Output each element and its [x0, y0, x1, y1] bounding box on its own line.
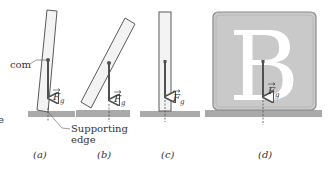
svg-text:g: g	[180, 98, 185, 106]
panel-a: com F g Supporting edge (a)	[10, 10, 129, 160]
svg-text:g: g	[60, 97, 65, 105]
caption-b: (b)	[97, 149, 111, 160]
caption-c: (c)	[161, 149, 175, 160]
supporting-edge-label-line1: Supporting	[71, 123, 129, 134]
force-label-c: F g	[172, 90, 185, 107]
caption-d: (d)	[258, 149, 272, 160]
svg-text:g: g	[121, 99, 126, 107]
com-dot-d	[262, 60, 265, 63]
ground-c	[140, 111, 200, 117]
center-of-gravity-diagram: e com F g Supporting edge (a) F g	[0, 0, 332, 173]
panel-c: F g (c)	[140, 12, 200, 160]
supporting-edge-label-line2: edge	[71, 134, 96, 145]
force-label-a: F g	[52, 89, 65, 106]
com-dot-b	[107, 61, 111, 65]
caption-a: (a)	[33, 149, 47, 160]
svg-text:g: g	[275, 91, 280, 99]
panel-d: B F g (d)	[205, 11, 322, 160]
com-dot-c	[164, 60, 167, 63]
ground-b	[76, 110, 130, 117]
cut-off-text: e	[0, 114, 4, 125]
force-label-b: F g	[113, 91, 126, 108]
com-label: com	[10, 59, 32, 70]
